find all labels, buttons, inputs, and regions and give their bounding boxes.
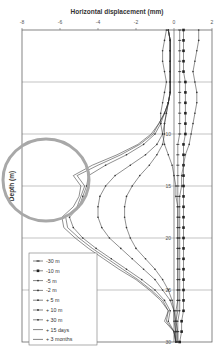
x-tick-label: 0	[173, 19, 176, 25]
x-tick-label: 2	[211, 19, 214, 25]
x-tick-label: -6	[58, 19, 63, 25]
legend-item: -2 m	[46, 287, 57, 293]
y-axis-label: Depth (m)	[8, 171, 16, 201]
y-tick-label: 15	[165, 183, 171, 189]
y-axis-ticks: 1015202530	[165, 131, 171, 345]
legend-item: -5 m	[46, 278, 57, 284]
x-tick-label: -8	[20, 19, 25, 25]
legend-item: -10 m	[46, 268, 60, 274]
legend-item: + 3 months	[46, 336, 73, 342]
x-tick-label: -2	[134, 19, 139, 25]
y-tick-label: 20	[165, 235, 171, 241]
legend-item: + 10 m	[46, 307, 63, 313]
legend-item: -30 m	[46, 258, 60, 264]
legend-item: + 15 days	[46, 327, 69, 333]
y-tick-label: 30	[165, 339, 171, 345]
highlight-ellipse	[3, 139, 89, 221]
legend-item: + 5 m	[46, 297, 60, 303]
legend-item: + 30 m	[46, 317, 63, 323]
displacement-chart: Horizontal displacement (mm) -8-6-4-202 …	[0, 0, 224, 352]
x-tick-label: -4	[96, 19, 101, 25]
legend: -30 m-10 m-5 m-2 m+ 5 m+ 10 m+ 30 m+ 15 …	[29, 253, 97, 345]
y-tick-label: 10	[165, 131, 171, 137]
chart-title: Horizontal displacement (mm)	[71, 8, 164, 16]
x-axis-ticks: -8-6-4-202	[20, 19, 214, 30]
